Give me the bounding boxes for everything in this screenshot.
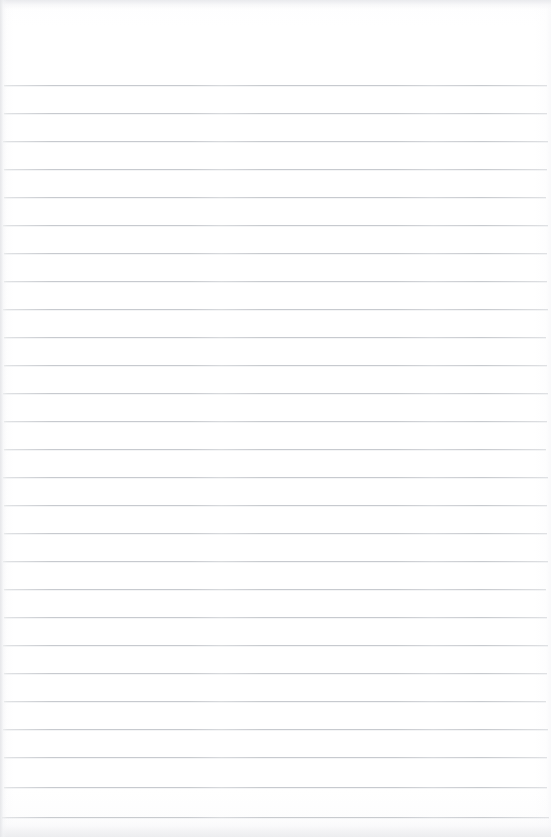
ruled-line (4, 505, 547, 506)
ruled-line (4, 281, 547, 282)
ruled-line (4, 365, 547, 366)
ruled-line (4, 787, 547, 788)
ruled-line (4, 169, 547, 170)
ruled-line (3, 393, 548, 394)
ruled-line (3, 141, 548, 142)
ruled-line (3, 561, 548, 562)
ruled-line (4, 197, 546, 198)
ruled-line (4, 421, 547, 422)
ruled-line (3, 309, 548, 310)
ruled-line (4, 701, 546, 702)
ruled-line (2, 817, 549, 818)
ruled-line (4, 533, 547, 534)
ruled-line (4, 85, 547, 86)
ruled-line (3, 645, 548, 646)
ruled-line (3, 225, 548, 226)
ruled-line (4, 673, 547, 674)
scanned-page (0, 0, 551, 837)
ruled-line (4, 589, 546, 590)
ruled-line (4, 337, 546, 338)
ruled-lines-layer (0, 0, 551, 837)
ruled-line (4, 113, 547, 114)
ruled-line (4, 449, 546, 450)
ruled-line (4, 253, 547, 254)
ruled-line (3, 729, 548, 730)
ruled-line (3, 477, 548, 478)
ruled-line (4, 757, 547, 758)
ruled-line (4, 617, 547, 618)
